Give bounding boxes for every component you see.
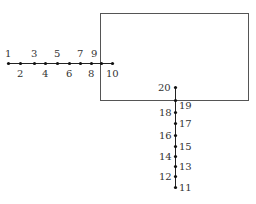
point-dot-19	[174, 99, 177, 102]
numbered-points-diagram: 1234567891020191817161514131211	[0, 0, 256, 204]
point-label-20: 20	[158, 82, 171, 93]
point-dot-2	[19, 62, 22, 65]
point-dot-17	[174, 122, 177, 125]
point-dot-12	[174, 175, 177, 178]
point-label-5: 5	[54, 48, 60, 59]
point-label-1: 1	[5, 48, 11, 59]
point-label-6: 6	[66, 68, 72, 79]
point-label-17: 17	[179, 118, 192, 129]
point-dot-1	[7, 62, 10, 65]
point-label-3: 3	[31, 48, 37, 59]
point-label-14: 14	[159, 151, 172, 162]
point-dot-18	[174, 111, 177, 114]
point-dot-7	[79, 62, 82, 65]
point-label-18: 18	[159, 107, 172, 118]
point-dot-6	[68, 62, 71, 65]
point-label-19: 19	[179, 100, 192, 111]
point-group: 1234567891020191817161514131211	[5, 48, 192, 193]
point-label-8: 8	[88, 68, 94, 79]
point-dot-13	[174, 165, 177, 168]
point-dot-15	[174, 145, 177, 148]
point-label-2: 2	[17, 68, 23, 79]
point-dot-11	[174, 186, 177, 189]
point-label-11: 11	[179, 182, 192, 193]
point-dot-10	[111, 62, 114, 65]
point-dot-9	[100, 62, 103, 65]
point-label-7: 7	[77, 48, 83, 59]
point-label-12: 12	[159, 171, 172, 182]
point-dot-16	[174, 134, 177, 137]
point-dot-14	[174, 155, 177, 158]
point-label-15: 15	[179, 141, 192, 152]
point-dot-8	[90, 62, 93, 65]
point-dot-3	[33, 62, 36, 65]
point-label-10: 10	[106, 68, 119, 79]
point-label-9: 9	[91, 48, 97, 59]
point-label-4: 4	[42, 68, 48, 79]
point-dot-5	[56, 62, 59, 65]
point-label-13: 13	[179, 161, 192, 172]
point-label-16: 16	[159, 130, 172, 141]
point-dot-20	[174, 86, 177, 89]
point-dot-4	[44, 62, 47, 65]
